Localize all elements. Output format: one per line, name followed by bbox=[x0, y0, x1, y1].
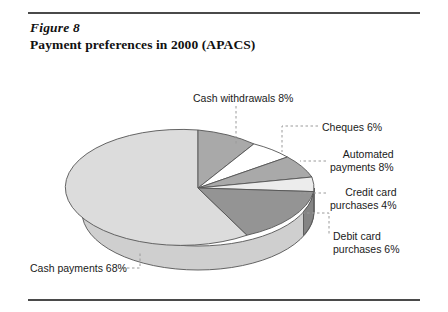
slice-label-cheques: Cheques 6% bbox=[322, 121, 382, 134]
slice-label-automated-payments: Automated payments 8% bbox=[330, 148, 394, 173]
slice-label-cash-withdrawals: Cash withdrawals 8% bbox=[193, 92, 293, 105]
slice-label-credit-card-line2: purchases 4% bbox=[330, 199, 397, 212]
slice-label-automated-payments-line2: payments 8% bbox=[330, 161, 394, 174]
slice-label-debit-card-line2: purchases 6% bbox=[333, 243, 400, 256]
slice-label-debit-card-line1: Debit card bbox=[333, 230, 381, 242]
pie-top-face bbox=[65, 129, 314, 245]
slice-label-credit-card-line1: Credit card bbox=[345, 186, 396, 198]
slice-label-automated-payments-line1: Automated bbox=[343, 148, 394, 160]
figure-frame: Figure 8 Payment preferences in 2000 (AP… bbox=[0, 0, 448, 312]
slice-label-credit-card: Credit card purchases 4% bbox=[330, 186, 397, 211]
leader-cheques bbox=[282, 126, 318, 152]
slice-label-debit-card: Debit card purchases 6% bbox=[333, 230, 400, 255]
slice-label-cash-payments: Cash payments 68% bbox=[30, 262, 127, 275]
pie-chart: Cash withdrawals 8% Cheques 6% Automated… bbox=[0, 0, 448, 312]
